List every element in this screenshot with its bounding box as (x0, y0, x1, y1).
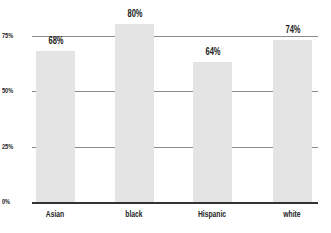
y-tick-label-75: 75% (2, 31, 20, 41)
value-label-asian: 68% (37, 35, 75, 47)
x-label-white: white (270, 209, 315, 220)
y-tick-label-25: 25% (2, 142, 20, 152)
y-tick-label-0: 0% (2, 197, 20, 207)
bar-black (115, 24, 154, 203)
gridline-75 (32, 36, 318, 37)
x-label-asian: Asian (33, 209, 78, 220)
bar-white (273, 40, 312, 203)
x-label-hispanic: Hispanic (190, 209, 235, 220)
bar-hispanic (193, 62, 232, 203)
x-label-black: black (112, 209, 157, 220)
bar-chart: 75% 50% 25% 0% 68% 80% 64% 74% Asian bla… (0, 0, 331, 233)
bar-asian (36, 51, 75, 203)
value-label-white: 74% (274, 24, 312, 36)
x-axis-baseline (32, 202, 318, 204)
y-tick-label-50: 50% (2, 86, 20, 96)
value-label-black: 80% (116, 8, 154, 20)
value-label-hispanic: 64% (194, 46, 232, 58)
